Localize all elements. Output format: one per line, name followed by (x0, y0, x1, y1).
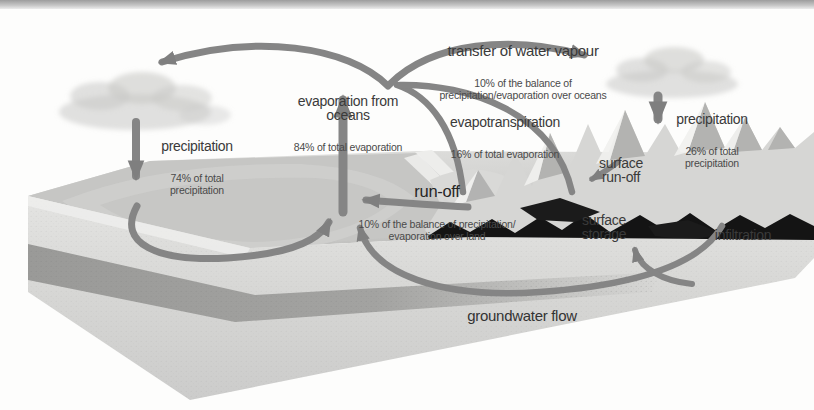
transfer-arc-left-arrow (162, 46, 388, 86)
terrain-illustration (0, 0, 814, 410)
transfer-arc-right-arrow (390, 44, 584, 84)
cloud-right (606, 47, 738, 98)
page-top-bar (0, 0, 814, 9)
water-cycle-diagram: transfer of water vapour 10% of the bala… (0, 0, 814, 410)
cloud-left (59, 72, 231, 130)
